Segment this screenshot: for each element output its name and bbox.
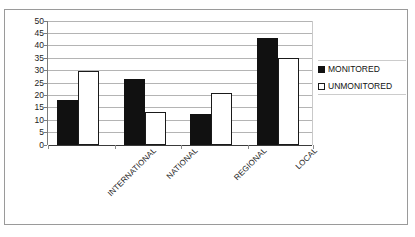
y-tick-label: 10 xyxy=(4,116,44,125)
legend-label-monitored: MONITORED xyxy=(328,65,380,74)
bar-chart-figure: 05101520253035404550 INTERNATIONALNATION… xyxy=(0,0,415,237)
bar-unmonitored xyxy=(211,93,232,145)
bar-unmonitored xyxy=(78,71,99,145)
bar-monitored xyxy=(57,100,78,145)
legend-item-unmonitored: UNMONITORED xyxy=(318,79,406,94)
y-tick-label: 45 xyxy=(4,29,44,38)
bars-layer xyxy=(48,21,312,145)
legend-bottom-divider xyxy=(318,94,406,95)
filled-square-icon xyxy=(318,66,325,73)
y-tick-label: 20 xyxy=(4,91,44,100)
y-tick-label: 15 xyxy=(4,103,44,112)
bar-monitored xyxy=(257,38,278,145)
y-tick-label: 5 xyxy=(4,128,44,137)
bar-monitored xyxy=(124,79,145,145)
y-tick-label: 40 xyxy=(4,41,44,50)
plot-area xyxy=(47,21,313,145)
y-tick-label: 30 xyxy=(4,66,44,75)
bar-group xyxy=(57,21,99,145)
x-axis: INTERNATIONALNATIONALREGIONALLOCAL xyxy=(47,146,313,206)
bar-group xyxy=(124,21,166,145)
y-tick-label: 35 xyxy=(4,54,44,63)
chart-legend: MONITORED UNMONITORED xyxy=(318,60,406,94)
legend-label-unmonitored: UNMONITORED xyxy=(328,82,392,91)
bar-unmonitored xyxy=(145,112,166,145)
legend-item-monitored: MONITORED xyxy=(318,62,406,77)
bar-monitored xyxy=(190,114,211,145)
x-tick-label: NATIONAL xyxy=(165,146,200,181)
y-tick-label: 0 xyxy=(4,141,44,150)
x-tick-label: INTERNATIONAL xyxy=(106,146,158,198)
y-axis: 05101520253035404550 xyxy=(0,21,44,145)
y-tick-label: 25 xyxy=(4,79,44,88)
bar-group xyxy=(190,21,232,145)
hollow-square-icon xyxy=(318,83,325,90)
y-tick-label: 50 xyxy=(4,17,44,26)
x-tick-label: REGIONAL xyxy=(232,146,268,182)
bar-unmonitored xyxy=(278,58,299,145)
bar-group xyxy=(257,21,299,145)
